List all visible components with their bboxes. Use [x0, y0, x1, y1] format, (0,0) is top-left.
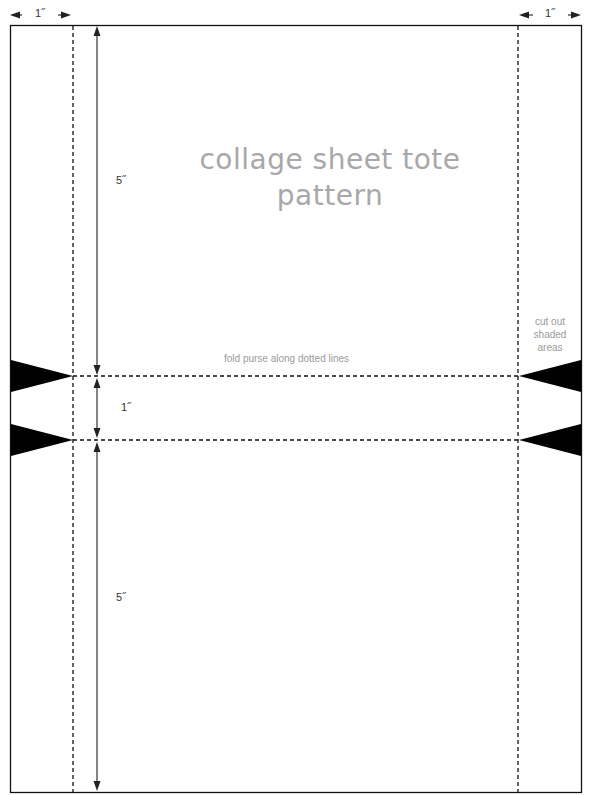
middle-section-label: 1˝ [121, 401, 131, 413]
left-margin-label: 1˝ [35, 7, 45, 19]
title-line-2: pattern [150, 178, 510, 214]
page-border [11, 26, 582, 793]
cut-instruction-line-1: cut out [524, 315, 576, 328]
cutout-triangle-right-lower [519, 424, 581, 456]
fold-instruction: fold purse along dotted lines [224, 352, 349, 365]
pattern-title: collage sheet tote pattern [150, 142, 510, 214]
middle-section-dimension-arrow [94, 378, 101, 438]
cut-instruction-line-3: areas [524, 341, 576, 354]
top-section-dimension-arrow [94, 26, 101, 375]
bottom-section-label: 5˝ [116, 591, 126, 603]
cutout-triangle-left-lower [11, 424, 73, 456]
bottom-section-dimension-arrow [94, 442, 101, 791]
cut-instruction-line-2: shaded [524, 328, 576, 341]
cutout-triangle-right-upper [519, 360, 581, 392]
title-line-1: collage sheet tote [150, 142, 510, 178]
right-margin-label: 1˝ [545, 7, 555, 19]
pattern-sheet [0, 0, 590, 795]
top-section-label: 5˝ [116, 174, 126, 186]
cut-instruction: cut out shaded areas [524, 315, 576, 354]
cutout-triangle-left-upper [11, 360, 73, 392]
